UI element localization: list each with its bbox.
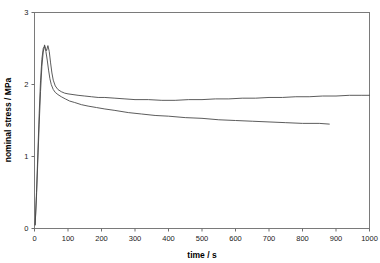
- x-tick-label: 100: [62, 234, 75, 243]
- y-tick-label: 0: [24, 224, 28, 233]
- plot-area-border: [35, 13, 370, 229]
- x-tick-label: 200: [95, 234, 108, 243]
- x-axis-title: time / s: [187, 250, 217, 260]
- y-axis-title: nominal stress / MPa: [3, 77, 13, 162]
- x-tick-label: 600: [229, 234, 242, 243]
- x-tick-label: 400: [162, 234, 175, 243]
- x-tick-label: 1000: [361, 234, 378, 243]
- plot-frame: [35, 13, 370, 229]
- x-axis-tick-labels: 01002003004005006007008009001000: [32, 234, 377, 243]
- stress-vs-time-chart: 0123 01002003004005006007008009001000 ti…: [0, 0, 380, 263]
- x-tick-label: 800: [296, 234, 309, 243]
- x-tick-label: 500: [196, 234, 209, 243]
- y-tick-label: 2: [24, 80, 28, 89]
- x-tick-label: 900: [330, 234, 343, 243]
- x-tick-label: 700: [263, 234, 276, 243]
- y-tick-label: 1: [24, 152, 28, 161]
- chart-svg: 0123 01002003004005006007008009001000 ti…: [0, 0, 380, 263]
- data-curves: [35, 45, 369, 225]
- series-curve-upper-plateau: [35, 45, 369, 225]
- y-tick-label: 3: [24, 8, 28, 17]
- series-curve-lower-decaying: [35, 46, 329, 225]
- x-tick-label: 300: [129, 234, 142, 243]
- x-tick-label: 0: [32, 234, 36, 243]
- y-axis-tick-labels: 0123: [24, 8, 28, 233]
